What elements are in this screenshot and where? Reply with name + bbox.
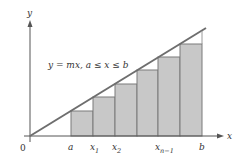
x-axis-label: x (227, 131, 232, 141)
riemann-rectangles (71, 44, 202, 136)
x-axis-arrow-icon (217, 134, 224, 139)
riemann-rectangle (137, 70, 158, 136)
origin-label: 0 (20, 143, 26, 153)
x-tick-subscript: 1 (95, 147, 99, 155)
x-tick-label: a (68, 142, 73, 152)
riemann-rectangle (158, 57, 180, 136)
equation-label: y = mx, a ≤ x ≤ b (47, 60, 129, 70)
diagram-canvas: y x 0 y = mx, a ≤ x ≤ b ax1x2xn−1b (0, 0, 240, 164)
x-tick-label: x1 (90, 142, 99, 155)
y-axis-arrow-icon (28, 20, 33, 27)
x-tick-label: xn−1 (155, 142, 174, 155)
x-tick-subscript: n−1 (160, 147, 174, 155)
x-tick-label: x2 (112, 142, 121, 155)
riemann-rectangle (93, 97, 115, 136)
y-axis-label: y (26, 8, 33, 18)
x-tick-subscript: 2 (116, 147, 121, 155)
x-tick-labels: ax1x2xn−1b (68, 142, 205, 155)
riemann-rectangle (71, 111, 93, 136)
x-tick-label: b (199, 142, 205, 152)
riemann-sum-diagram: y x 0 y = mx, a ≤ x ≤ b ax1x2xn−1b (0, 0, 240, 164)
riemann-rectangle (180, 44, 202, 136)
riemann-rectangle (115, 84, 137, 136)
